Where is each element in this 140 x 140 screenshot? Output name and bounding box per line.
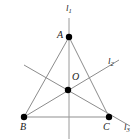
geometry-canvas [0, 0, 140, 140]
point-b [21, 114, 27, 120]
line-label-l2: l2 [108, 57, 114, 66]
segment-ab [24, 37, 69, 117]
point-o [65, 87, 71, 93]
line-label-l1: l1 [66, 4, 72, 13]
point-c [106, 114, 112, 120]
point-label-a: A [57, 30, 63, 40]
line-label-l2-sub: 2 [111, 60, 114, 67]
line-label-l3-sub: 3 [127, 126, 130, 133]
point-label-b: B [20, 122, 26, 132]
line-label-l3: l3 [124, 123, 130, 132]
point-label-c: C [103, 122, 110, 132]
point-label-o: O [72, 72, 79, 82]
geometry-figure: A B C O l1 l2 l3 [0, 0, 140, 140]
line-label-l1-sub: 1 [69, 7, 72, 14]
point-a [66, 34, 72, 40]
